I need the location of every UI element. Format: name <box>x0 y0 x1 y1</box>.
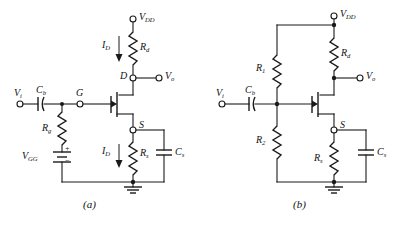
drain-resistor-b <box>330 38 338 71</box>
output-terminal-a <box>156 75 162 81</box>
label-vi-b: Vi <box>216 88 224 98</box>
label-gate-node-a: G <box>76 88 83 98</box>
figure-root: VDD Rd ID D Vo Vi Cb G Rg VGG + − S ID R… <box>0 0 398 226</box>
source-resistor-a <box>129 142 137 175</box>
input-terminal-a <box>17 101 23 107</box>
label-drain-node-a: D <box>120 71 127 81</box>
drain-resistor-a <box>129 32 137 65</box>
gate-resistor-a <box>58 112 66 145</box>
output-terminal-b <box>357 75 363 81</box>
source-current-arrow-head-a <box>116 160 123 168</box>
label-vo-b: Vo <box>366 71 375 81</box>
vdd-terminal-a <box>130 16 136 22</box>
source-resistor-b <box>330 142 338 175</box>
divider-top-resistor-b <box>273 55 281 88</box>
label-id-drain-a: ID <box>102 40 110 50</box>
label-vi-a: Vi <box>14 88 22 98</box>
label-rd-b: Rd <box>341 48 350 58</box>
label-cb-a: Cb <box>36 85 46 95</box>
label-r2-b: R2 <box>256 135 265 145</box>
gate-terminal-a <box>77 101 83 107</box>
gate-arrow-a <box>111 101 117 108</box>
schematic-canvas <box>0 0 398 226</box>
label-cb-b: Cb <box>245 85 255 95</box>
caption-b: (b) <box>293 198 306 210</box>
label-r1-b: R1 <box>256 63 265 73</box>
label-id-source-a: ID <box>102 146 110 156</box>
label-rg-a: Rg <box>42 123 51 133</box>
label-source-node-b: S <box>340 120 345 130</box>
drain-current-arrow-head-a <box>116 54 123 62</box>
label-rs-a: Rs <box>140 148 149 158</box>
drain-node-terminal-a <box>130 75 136 81</box>
battery-minus-sign-a: − <box>65 157 70 165</box>
vdd-terminal-b <box>331 13 337 19</box>
battery-plus-sign-a: + <box>65 145 70 153</box>
label-vgg-a: VGG <box>22 151 38 161</box>
label-cs-a: Cs <box>175 147 184 157</box>
label-rd-a: Rd <box>140 42 149 52</box>
input-terminal-b <box>219 101 225 107</box>
source-node-terminal-a <box>130 127 136 133</box>
divider-bottom-resistor-b <box>273 126 281 159</box>
caption-a: (a) <box>83 198 96 210</box>
label-cs-b: Cs <box>377 147 386 157</box>
label-source-node-a: S <box>139 120 144 130</box>
source-node-terminal-b <box>331 127 337 133</box>
label-rs-b: Rs <box>314 153 323 163</box>
label-vo-a: Vo <box>165 71 174 81</box>
gate-arrow-b <box>312 101 318 108</box>
label-vdd-b: VDD <box>340 9 356 19</box>
label-vdd-a: VDD <box>139 12 155 22</box>
